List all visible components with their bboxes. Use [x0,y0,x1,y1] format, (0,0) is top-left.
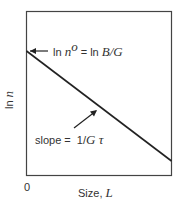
intercept-annotation: ln no = ln B/G [53,39,123,59]
x-axis-label: Size, L [78,185,113,200]
chart: ln no = ln B/G slope = 1/G τ ln n 0 Size… [0,0,180,207]
x-origin-label: 0 [24,181,30,193]
intercept-arrowhead-icon [30,48,36,54]
slope-annotation: slope = 1/G τ [35,132,105,147]
y-axis-label: ln n [1,91,16,109]
plot-frame [27,12,172,176]
